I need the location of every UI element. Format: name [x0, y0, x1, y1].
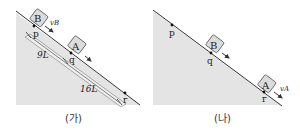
point-q-label: q	[69, 55, 75, 65]
block-a-label: A	[71, 41, 80, 52]
caption-na: (나)	[214, 113, 231, 124]
motion-arrow-b	[222, 53, 229, 58]
point-r-label-b: r	[262, 94, 267, 104]
point-p-marker-b	[171, 24, 174, 27]
block-a-label-b: A	[261, 80, 270, 91]
point-r-marker-b	[263, 91, 266, 94]
point-p-marker	[33, 25, 36, 28]
velocity-label-va: vA	[280, 85, 289, 93]
distance-9l: 9L	[37, 50, 49, 60]
velocity-label-vb: vB	[50, 19, 59, 27]
block-b-label-b: B	[210, 40, 217, 51]
caption-ga: (가)	[65, 113, 82, 124]
point-p-label-b: p	[169, 28, 175, 38]
point-q-marker	[70, 52, 73, 55]
point-q-marker-b	[210, 52, 213, 55]
point-r-marker	[124, 92, 127, 95]
point-q-label-b: q	[207, 56, 213, 66]
motion-arrow-a	[85, 56, 91, 61]
point-r-label: r	[123, 95, 128, 105]
panel-b: p B q A vA r (나)	[153, 10, 289, 124]
block-b-label: B	[34, 13, 41, 24]
panel-a: B vB p A q r 9L 16L (가)	[16, 8, 140, 124]
distance-16l: 16L	[80, 84, 97, 94]
point-p-label: p	[33, 29, 39, 39]
physics-diagram: B vB p A q r 9L 16L (가) p B q	[0, 0, 300, 132]
